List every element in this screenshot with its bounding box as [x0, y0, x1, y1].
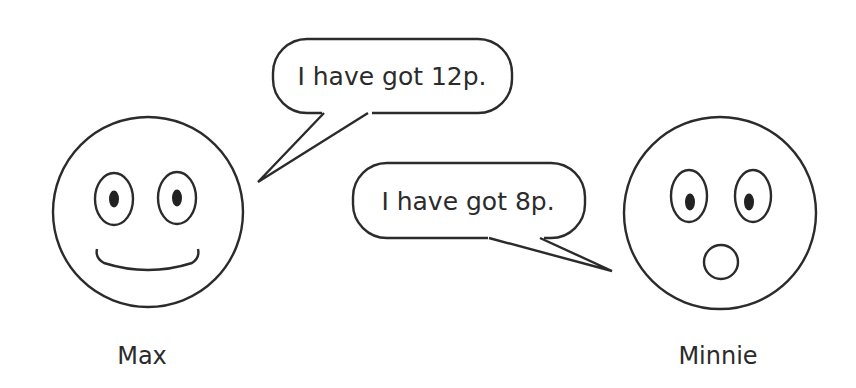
max-smile — [97, 249, 199, 270]
minnie-speech-text: I have got 8p. — [381, 187, 554, 216]
minnie-bubble-tail — [489, 238, 612, 271]
minnie-face — [624, 117, 816, 309]
max-speech-bubble: I have got 12p. — [258, 39, 512, 182]
max-left-pupil — [109, 191, 119, 208]
max-name-label: Max — [117, 342, 167, 370]
minnie-open-mouth — [704, 245, 738, 279]
minnie-left-pupil — [685, 194, 695, 211]
minnie-right-eye — [735, 170, 771, 222]
minnie-name-label: Minnie — [678, 342, 757, 370]
minnie-speech-bubble: I have got 8p. — [353, 163, 612, 271]
scene: I have got 12p. I have got 8p. Max Minni… — [0, 0, 856, 388]
minnie-head-outline — [624, 117, 816, 309]
max-bubble-tail — [258, 113, 368, 182]
max-right-pupil — [172, 190, 182, 207]
minnie-right-pupil — [744, 194, 754, 211]
max-face — [53, 117, 243, 307]
max-speech-text: I have got 12p. — [297, 62, 486, 91]
minnie-bubble-gap — [488, 233, 544, 243]
max-head-outline — [53, 117, 243, 307]
